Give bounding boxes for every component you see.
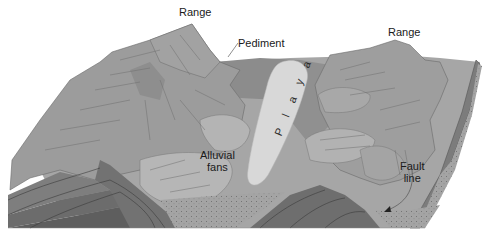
label-range-right: Range — [388, 26, 420, 38]
label-pediment: Pediment — [238, 37, 284, 49]
label-alluvial-fans-line2: fans — [200, 161, 235, 173]
pediment-leader-line — [228, 43, 238, 57]
label-range-left: Range — [179, 6, 211, 18]
label-fault-line-line1: Fault — [400, 160, 424, 172]
label-alluvial-fans: Alluvial fans — [200, 149, 235, 173]
label-fault-line: Fault line — [400, 160, 424, 184]
label-alluvial-fans-line1: Alluvial — [200, 149, 235, 161]
label-fault-line-line2: line — [400, 172, 424, 184]
